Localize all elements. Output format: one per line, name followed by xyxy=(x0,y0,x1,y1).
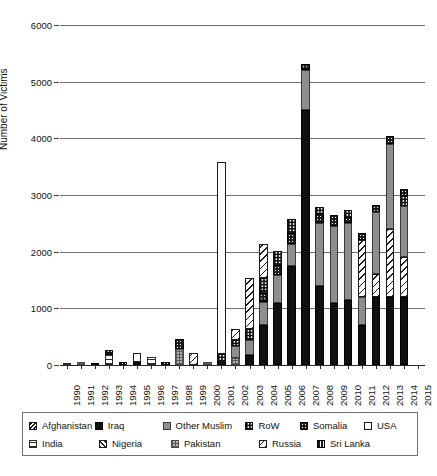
iraq-swatch-icon xyxy=(95,422,103,430)
bar-stack[interactable] xyxy=(372,205,381,365)
gridline xyxy=(60,252,425,253)
bar-stack[interactable] xyxy=(147,357,156,366)
bar-stack[interactable] xyxy=(330,215,339,365)
bar-segment xyxy=(105,350,114,355)
legend-item-nigeria[interactable]: Nigeria xyxy=(99,439,171,449)
bar-stack[interactable] xyxy=(301,64,310,365)
bar-segment xyxy=(259,293,268,302)
bar-segment xyxy=(315,223,324,285)
x-axis-tick-label: 2000 xyxy=(211,385,222,406)
x-axis-tick-label: 1992 xyxy=(99,385,110,406)
bar-stack[interactable] xyxy=(231,329,240,365)
india-swatch-icon xyxy=(29,440,37,448)
bar-stack[interactable] xyxy=(273,251,282,365)
chart-page: Number of Victims 0100020003000400050006… xyxy=(0,0,437,476)
y-axis-tick-label: 5000 xyxy=(0,76,52,87)
x-axis-tick-mark xyxy=(137,365,138,369)
bar-segment xyxy=(245,329,254,339)
bar-stack[interactable] xyxy=(189,353,198,365)
bar-stack[interactable] xyxy=(386,136,395,366)
x-axis-tick-mark xyxy=(264,365,265,369)
bar-segment xyxy=(259,325,268,365)
x-axis-tick-label: 1996 xyxy=(155,385,166,406)
bar-segment xyxy=(330,226,339,303)
legend-item-other-muslim[interactable]: Other Muslim xyxy=(163,421,246,431)
bar-stack[interactable] xyxy=(245,278,254,365)
legend-item-sri-lanka[interactable]: Sri Lanka xyxy=(317,439,385,449)
bar-segment xyxy=(386,229,395,297)
usa-swatch-icon xyxy=(364,422,372,430)
bar-segment xyxy=(133,353,142,362)
y-axis-tick-label: 0 xyxy=(0,360,52,371)
legend-item-iraq[interactable]: Iraq xyxy=(95,421,163,431)
bar-stack[interactable] xyxy=(400,200,409,365)
bar-segment xyxy=(372,274,381,297)
x-axis-tick-mark xyxy=(123,365,124,369)
legend-label: RoW xyxy=(258,421,279,431)
bar-segment xyxy=(315,207,324,214)
legend-label: Other Muslim xyxy=(176,421,232,431)
bar-segment xyxy=(287,233,296,244)
legend-item-somalia[interactable]: Somalia xyxy=(300,421,364,431)
bar-stack[interactable] xyxy=(315,207,324,365)
x-axis-tick-mark xyxy=(95,365,96,369)
y-axis-tick-mark xyxy=(54,252,59,253)
bar-segment xyxy=(273,251,282,265)
bar-stack[interactable] xyxy=(358,233,367,365)
legend-item-afghanistan[interactable]: Afghanistan xyxy=(29,421,95,431)
x-axis-tick-label: 1999 xyxy=(197,385,208,406)
x-axis-tick-mark xyxy=(362,365,363,369)
y-axis-tick-mark xyxy=(54,365,59,366)
y-axis-tick-mark xyxy=(54,308,59,309)
bar-segment xyxy=(175,339,184,349)
x-axis-tick-label: 2015 xyxy=(422,385,433,406)
legend-item-usa[interactable]: USA xyxy=(364,421,411,431)
bar-segment xyxy=(273,265,282,275)
bar-stack[interactable] xyxy=(175,339,184,365)
bar-stack[interactable] xyxy=(287,219,296,365)
bar-segment xyxy=(315,214,324,223)
legend-label: Iraq xyxy=(108,421,124,431)
x-axis-tick-label: 1995 xyxy=(141,385,152,406)
bar-segment xyxy=(259,244,268,278)
x-axis-tick-label: 2012 xyxy=(380,385,391,406)
legend-label: Russia xyxy=(272,439,301,449)
legend-label: India xyxy=(42,439,63,449)
legend-item-row[interactable]: RoW xyxy=(245,421,300,431)
gridline xyxy=(60,138,425,139)
x-axis-tick-label: 2010 xyxy=(352,385,363,406)
legend-item-pakistan[interactable]: Pakistan xyxy=(171,439,259,449)
x-axis-tick-mark xyxy=(67,365,68,369)
bar-stack[interactable] xyxy=(133,353,142,365)
sri-lanka-swatch-icon xyxy=(317,440,325,448)
x-axis-tick-mark xyxy=(348,365,349,369)
bar-segment xyxy=(189,353,198,365)
bar-stack[interactable] xyxy=(259,244,268,365)
x-axis-tick-mark xyxy=(109,365,110,369)
x-axis-tick-mark xyxy=(390,365,391,369)
x-axis-tick-mark xyxy=(306,365,307,369)
x-axis-tick-label: 1990 xyxy=(71,385,82,406)
x-axis-tick-mark xyxy=(292,365,293,369)
plot-area xyxy=(60,25,425,365)
bar-segment xyxy=(400,257,409,297)
bar-segment xyxy=(287,266,296,365)
nigeria-swatch-icon xyxy=(99,440,107,448)
x-axis-tick-label: 2008 xyxy=(324,385,335,406)
bar-stack[interactable] xyxy=(105,350,114,365)
bar-segment xyxy=(245,340,254,356)
x-axis-tick-label: 2014 xyxy=(408,385,419,406)
legend-item-russia[interactable]: Russia xyxy=(259,439,317,449)
x-axis-tick-mark xyxy=(418,365,419,369)
bar-stack[interactable] xyxy=(344,210,353,365)
bar-segment xyxy=(231,358,240,365)
gridline xyxy=(60,25,425,26)
bar-stack[interactable] xyxy=(217,162,226,365)
x-axis-tick-label: 2004 xyxy=(268,385,279,406)
bar-segment xyxy=(245,278,254,329)
bar-segment xyxy=(386,297,395,365)
legend-item-india[interactable]: India xyxy=(29,439,99,449)
bar-segment xyxy=(344,217,353,224)
y-axis-tick-mark xyxy=(54,25,59,26)
y-axis-tick-mark xyxy=(54,138,59,139)
